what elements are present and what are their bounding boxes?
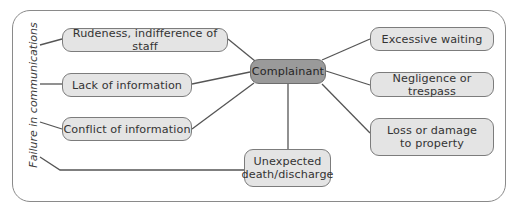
- edge-complainant-conflict: [192, 83, 254, 129]
- node-negligence-or-trespass: Negligence or trespass: [370, 72, 494, 97]
- node-complainant: Complainant: [250, 59, 326, 84]
- node-rudeness: Rudeness, indifference of staff: [62, 28, 228, 52]
- edge-side-rudeness: [40, 39, 62, 45]
- node-unexpected-line-2: death/discharge: [241, 168, 333, 181]
- edge-complainant-lack-info: [192, 72, 250, 84]
- node-conflict-of-information: Conflict of information: [62, 117, 192, 141]
- edge-complainant-negligence: [326, 71, 370, 85]
- edge-complainant-loss: [322, 84, 370, 133]
- node-loss-or-damage: Loss or damage to property: [370, 118, 494, 156]
- edge-side-conflict: [40, 122, 62, 129]
- side-label-failure-in-communications: Failure in communications: [27, 22, 40, 167]
- node-loss-line-2: to property: [400, 137, 464, 150]
- node-unexpected-line-1: Unexpected: [253, 155, 321, 168]
- node-excessive-waiting: Excessive waiting: [370, 27, 494, 51]
- node-unexpected-death-discharge: Unexpected death/discharge: [244, 149, 331, 187]
- edge-side-unexpected: [40, 157, 244, 170]
- node-loss-line-1: Loss or damage: [387, 124, 477, 137]
- edge-complainant-rudeness: [228, 39, 255, 61]
- edge-complainant-waiting: [322, 39, 370, 60]
- node-lack-of-information: Lack of information: [62, 73, 192, 97]
